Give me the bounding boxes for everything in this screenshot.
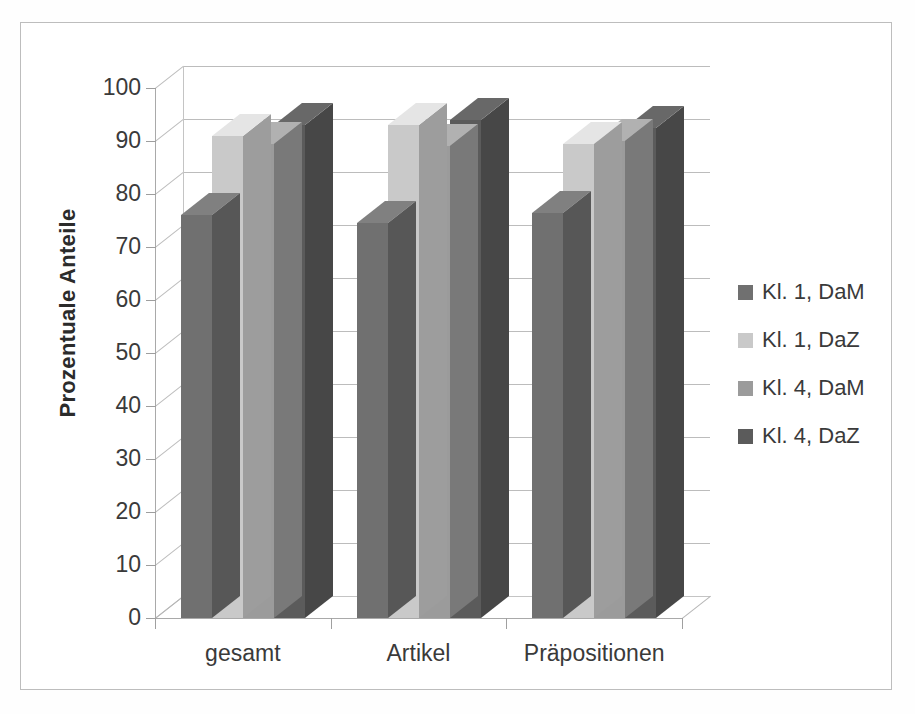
chart-legend: Kl. 1, DaMKl. 1, DaZKl. 4, DaMKl. 4, DaZ: [738, 268, 888, 460]
gridline-depth: [155, 437, 184, 460]
y-axis-tick: [146, 247, 156, 248]
y-axis-tick: [146, 300, 156, 301]
gridline-depth: [155, 225, 184, 248]
bar-front-face: [181, 215, 212, 618]
legend-label: Kl. 1, DaM: [762, 279, 865, 305]
chart-figure: 1009080706050403020100gesamtArtikelPräpo…: [0, 0, 915, 714]
bar-side-face: [481, 98, 509, 618]
x-axis-category-label: Artikel: [331, 640, 507, 667]
y-axis-tick: [146, 512, 156, 513]
bar-front-face: [357, 223, 388, 618]
y-axis-tick: [146, 353, 156, 354]
legend-swatch: [738, 381, 753, 396]
legend-swatch: [738, 429, 753, 444]
x-axis-tick: [682, 618, 683, 629]
x-axis-tick-origin: [155, 618, 156, 629]
floor-right-edge: [682, 596, 711, 619]
bar-side-face: [388, 201, 416, 618]
y-axis-tick: [146, 459, 156, 460]
y-axis-tick: [146, 406, 156, 407]
x-axis-category-label: gesamt: [155, 640, 331, 667]
legend-item[interactable]: Kl. 1, DaZ: [738, 316, 888, 364]
bar-side-face: [594, 122, 622, 618]
y-axis-tick-label: 40: [81, 394, 141, 417]
bar-front-face: [532, 213, 563, 618]
y-axis-tick-label: 10: [81, 553, 141, 576]
bar: [181, 193, 240, 618]
y-axis-tick: [146, 565, 156, 566]
legend-swatch: [738, 333, 753, 348]
legend-item[interactable]: Kl. 4, DaM: [738, 364, 888, 412]
y-axis-tick: [146, 141, 156, 142]
y-axis-tick-label: 50: [81, 341, 141, 364]
gridline-depth: [155, 278, 184, 301]
bar-side-face: [419, 103, 447, 618]
x-axis-tick: [506, 618, 507, 629]
bar-side-face: [656, 106, 684, 618]
gridline-depth: [155, 172, 184, 195]
y-axis-tick-label: 100: [81, 76, 141, 99]
bar-side-face: [243, 114, 271, 618]
y-axis-tick-label: 60: [81, 288, 141, 311]
gridline-depth: [155, 384, 184, 407]
bar-side-face: [563, 191, 591, 618]
y-axis-tick: [146, 88, 156, 89]
y-axis-tick-label: 90: [81, 129, 141, 152]
bar-side-face: [450, 124, 478, 618]
bar: [357, 201, 416, 618]
y-axis-tick: [146, 194, 156, 195]
legend-label: Kl. 4, DaZ: [762, 423, 860, 449]
bar: [532, 191, 591, 618]
x-axis-tick: [331, 618, 332, 629]
gridline-depth: [155, 543, 184, 566]
floor-left-edge: [155, 596, 184, 619]
legend-swatch: [738, 285, 753, 300]
legend-label: Kl. 4, DaM: [762, 375, 865, 401]
y-axis-tick-label: 20: [81, 500, 141, 523]
x-axis-category-label: Präpositionen: [506, 640, 682, 667]
gridline-depth: [155, 490, 184, 513]
bar-side-face: [274, 122, 302, 618]
gridline-depth: [155, 331, 184, 354]
legend-item[interactable]: Kl. 4, DaZ: [738, 412, 888, 460]
bar-side-face: [305, 103, 333, 618]
gridline: [183, 66, 710, 67]
y-axis-tick-label: 30: [81, 447, 141, 470]
y-axis-tick-label: 70: [81, 235, 141, 258]
gridline-depth: [155, 66, 184, 89]
legend-item[interactable]: Kl. 1, DaM: [738, 268, 888, 316]
bar-side-face: [625, 119, 653, 618]
gridline-depth: [155, 119, 184, 142]
y-axis-title: Prozentuale Anteile: [55, 183, 81, 443]
y-axis-tick-label: 0: [81, 606, 141, 629]
y-axis-tick-label: 80: [81, 182, 141, 205]
legend-label: Kl. 1, DaZ: [762, 327, 860, 353]
bar-side-face: [212, 193, 240, 618]
